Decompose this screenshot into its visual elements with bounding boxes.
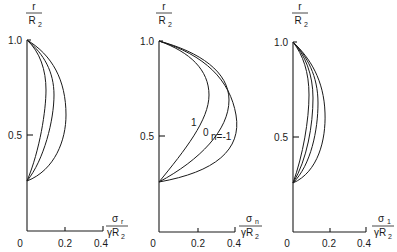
curve-n-neg1 — [159, 41, 237, 182]
x-axis-label-denominator: γR — [107, 227, 119, 238]
y-tick-label-1: 1.0 — [140, 36, 154, 47]
x-axis-label-numerator: σ — [378, 213, 385, 224]
x-axis-label-denominator: γR — [374, 227, 386, 238]
y-axis-label-numerator: r — [162, 1, 166, 12]
x-tick-label-04: 0.4 — [227, 238, 241, 249]
y-tick-label-1: 1.0 — [274, 37, 288, 48]
curve-n-1 — [27, 40, 46, 181]
figure: r R 2 1.0 0.5 0 0.2 0.4 σ r γR 2 r R 2 — [0, 0, 397, 252]
x-tick-label-02: 0.2 — [58, 238, 72, 249]
x-axis-label-numerator-sub: n — [255, 218, 259, 225]
y-tick-label-05: 0.5 — [140, 131, 154, 142]
x-axis-label-denominator-sub: 2 — [388, 233, 392, 240]
x-axis-label-numerator: σ — [112, 213, 119, 224]
y-axis-label-subscript: 2 — [38, 21, 42, 28]
curve-label-n-0: 0 — [203, 127, 209, 138]
x-tick-label-0: 0 — [17, 238, 23, 249]
y-tick-label-05: 0.5 — [274, 132, 288, 143]
curve-label-n-1: 1 — [191, 117, 197, 128]
panel-sigma-1: r R 2 1.0 0.5 0 0.2 0.4 σ 1 γR 2 — [274, 1, 394, 249]
curve-c — [293, 42, 318, 183]
x-axis-label-numerator: σ — [246, 213, 253, 224]
x-tick-label-04: 0.4 — [357, 238, 371, 249]
x-axis-label-numerator-sub: r — [121, 218, 124, 225]
curve-n-neg1 — [27, 40, 66, 181]
y-axis-label-numerator: r — [298, 1, 302, 12]
x-tick-label-02: 0.2 — [191, 238, 205, 249]
x-axis-label-numerator-sub: 1 — [387, 218, 391, 225]
x-tick-label-02: 0.2 — [322, 238, 336, 249]
x-tick-label-0: 0 — [284, 238, 290, 249]
panel-sigma-n: r R 2 1.0 0.5 0 0.2 0.4 σ n γR 2 1 0 n=-… — [140, 1, 262, 249]
y-axis-label-subscript: 2 — [304, 21, 308, 28]
panel-sigma-r: r R 2 1.0 0.5 0 0.2 0.4 σ r γR 2 — [8, 1, 128, 249]
y-axis-label-denominator: R — [28, 15, 35, 26]
x-tick-label-04: 0.4 — [94, 238, 108, 249]
y-axis-label-denominator: R — [294, 15, 301, 26]
y-axis-label-denominator: R — [158, 15, 165, 26]
y-axis-label-subscript: 2 — [168, 21, 172, 28]
x-axis-label-denominator: γR — [241, 227, 253, 238]
y-tick-label-05: 0.5 — [8, 130, 22, 141]
x-axis-label-denominator-sub: 2 — [121, 233, 125, 240]
x-axis-label-denominator-sub: 2 — [255, 233, 259, 240]
x-tick-label-0: 0 — [150, 238, 156, 249]
curve-label-n-neg1: n=-1 — [211, 131, 232, 142]
curve-n-0 — [159, 41, 229, 182]
curve-n-1 — [159, 41, 209, 182]
y-axis-label-numerator: r — [32, 1, 36, 12]
y-tick-label-1: 1.0 — [8, 35, 22, 46]
